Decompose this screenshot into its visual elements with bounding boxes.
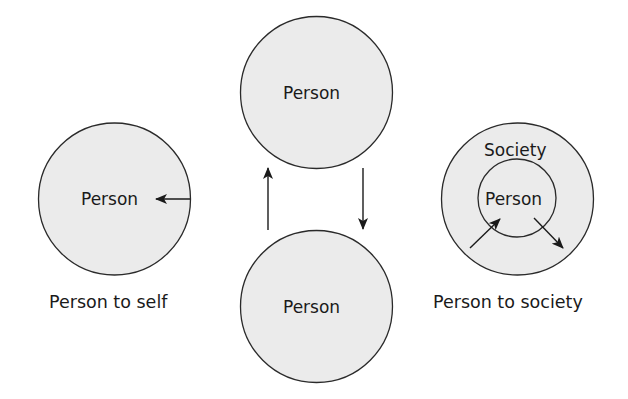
society-caption: Person to society [433, 292, 583, 312]
person-to-society-group: Society Person Person to society [433, 123, 594, 312]
top-person-label: Person [283, 83, 340, 103]
self-circle-label: Person [81, 189, 138, 209]
person-to-person-group: Person Person [241, 17, 393, 383]
person-to-self-group: Person Person to self [39, 123, 191, 312]
bottom-person-label: Person [283, 297, 340, 317]
conflict-diagram: Person Person to self Person Person Soci… [0, 0, 628, 399]
society-label: Society [484, 140, 546, 160]
society-inner-person-label: Person [485, 189, 542, 209]
self-caption: Person to self [49, 292, 168, 312]
